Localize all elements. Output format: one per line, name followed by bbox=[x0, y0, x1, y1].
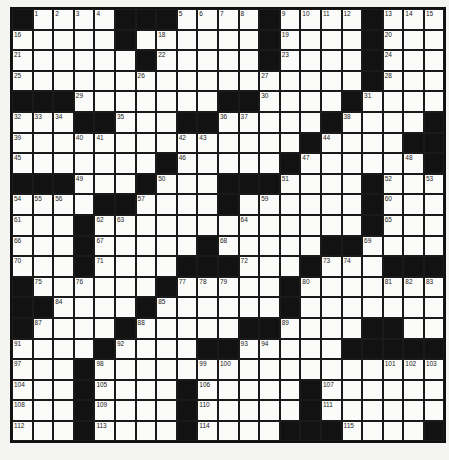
answer-square[interactable] bbox=[218, 400, 239, 421]
answer-square[interactable]: 10 bbox=[300, 9, 321, 30]
answer-square[interactable] bbox=[177, 339, 198, 360]
answer-square[interactable] bbox=[321, 339, 342, 360]
answer-square[interactable] bbox=[239, 153, 260, 174]
answer-square[interactable] bbox=[136, 277, 157, 298]
answer-square[interactable] bbox=[197, 71, 218, 92]
answer-square[interactable] bbox=[156, 359, 177, 380]
answer-square[interactable] bbox=[156, 236, 177, 257]
answer-square[interactable] bbox=[403, 215, 424, 236]
answer-square[interactable]: 114 bbox=[197, 421, 218, 442]
answer-square[interactable]: 54 bbox=[12, 194, 33, 215]
answer-square[interactable] bbox=[74, 30, 95, 51]
answer-square[interactable]: 111 bbox=[321, 400, 342, 421]
answer-square[interactable] bbox=[156, 215, 177, 236]
answer-square[interactable] bbox=[239, 133, 260, 154]
answer-square[interactable]: 82 bbox=[403, 277, 424, 298]
answer-square[interactable]: 113 bbox=[94, 421, 115, 442]
answer-square[interactable]: 14 bbox=[403, 9, 424, 30]
answer-square[interactable]: 21 bbox=[12, 50, 33, 71]
answer-square[interactable] bbox=[177, 194, 198, 215]
answer-square[interactable]: 53 bbox=[424, 174, 445, 195]
answer-square[interactable]: 7 bbox=[218, 9, 239, 30]
answer-square[interactable] bbox=[300, 318, 321, 339]
answer-square[interactable]: 66 bbox=[12, 236, 33, 257]
answer-square[interactable]: 69 bbox=[362, 236, 383, 257]
answer-square[interactable]: 105 bbox=[94, 380, 115, 401]
answer-square[interactable] bbox=[321, 30, 342, 51]
answer-square[interactable] bbox=[403, 236, 424, 257]
answer-square[interactable] bbox=[403, 30, 424, 51]
answer-square[interactable] bbox=[115, 297, 136, 318]
answer-square[interactable]: 60 bbox=[383, 194, 404, 215]
answer-square[interactable] bbox=[280, 359, 301, 380]
answer-square[interactable] bbox=[218, 215, 239, 236]
answer-square[interactable]: 50 bbox=[156, 174, 177, 195]
answer-square[interactable] bbox=[362, 380, 383, 401]
answer-square[interactable] bbox=[177, 318, 198, 339]
answer-square[interactable] bbox=[115, 359, 136, 380]
answer-square[interactable]: 15 bbox=[424, 9, 445, 30]
answer-square[interactable] bbox=[239, 297, 260, 318]
answer-square[interactable] bbox=[33, 421, 54, 442]
answer-square[interactable]: 76 bbox=[74, 277, 95, 298]
answer-square[interactable] bbox=[321, 277, 342, 298]
answer-square[interactable] bbox=[53, 236, 74, 257]
answer-square[interactable]: 79 bbox=[218, 277, 239, 298]
answer-square[interactable] bbox=[259, 112, 280, 133]
answer-square[interactable]: 109 bbox=[94, 400, 115, 421]
answer-square[interactable] bbox=[300, 297, 321, 318]
answer-square[interactable] bbox=[94, 153, 115, 174]
answer-square[interactable] bbox=[424, 91, 445, 112]
answer-square[interactable] bbox=[136, 91, 157, 112]
answer-square[interactable]: 49 bbox=[74, 174, 95, 195]
answer-square[interactable] bbox=[177, 71, 198, 92]
answer-square[interactable] bbox=[33, 153, 54, 174]
answer-square[interactable] bbox=[33, 50, 54, 71]
answer-square[interactable] bbox=[383, 400, 404, 421]
answer-square[interactable] bbox=[239, 277, 260, 298]
answer-square[interactable]: 23 bbox=[280, 50, 301, 71]
answer-square[interactable] bbox=[53, 400, 74, 421]
answer-square[interactable] bbox=[300, 30, 321, 51]
answer-square[interactable] bbox=[177, 359, 198, 380]
answer-square[interactable]: 84 bbox=[53, 297, 74, 318]
answer-square[interactable]: 9 bbox=[280, 9, 301, 30]
answer-square[interactable] bbox=[321, 359, 342, 380]
answer-square[interactable]: 19 bbox=[280, 30, 301, 51]
answer-square[interactable]: 38 bbox=[342, 112, 363, 133]
answer-square[interactable] bbox=[300, 359, 321, 380]
answer-square[interactable] bbox=[177, 174, 198, 195]
answer-square[interactable] bbox=[197, 30, 218, 51]
answer-square[interactable] bbox=[342, 153, 363, 174]
answer-square[interactable] bbox=[115, 277, 136, 298]
answer-square[interactable] bbox=[424, 400, 445, 421]
answer-square[interactable] bbox=[74, 318, 95, 339]
answer-square[interactable] bbox=[362, 256, 383, 277]
answer-square[interactable] bbox=[259, 236, 280, 257]
answer-square[interactable]: 55 bbox=[33, 194, 54, 215]
answer-square[interactable] bbox=[94, 91, 115, 112]
answer-square[interactable]: 73 bbox=[321, 256, 342, 277]
answer-square[interactable] bbox=[53, 133, 74, 154]
answer-square[interactable] bbox=[280, 91, 301, 112]
answer-square[interactable] bbox=[300, 194, 321, 215]
answer-square[interactable] bbox=[156, 71, 177, 92]
answer-square[interactable]: 74 bbox=[342, 256, 363, 277]
answer-square[interactable]: 103 bbox=[424, 359, 445, 380]
answer-square[interactable]: 81 bbox=[383, 277, 404, 298]
answer-square[interactable] bbox=[53, 339, 74, 360]
answer-square[interactable] bbox=[136, 339, 157, 360]
answer-square[interactable]: 89 bbox=[280, 318, 301, 339]
answer-square[interactable] bbox=[300, 112, 321, 133]
answer-square[interactable] bbox=[280, 400, 301, 421]
answer-square[interactable]: 11 bbox=[321, 9, 342, 30]
answer-square[interactable] bbox=[156, 318, 177, 339]
answer-square[interactable] bbox=[53, 359, 74, 380]
answer-square[interactable]: 97 bbox=[12, 359, 33, 380]
answer-square[interactable] bbox=[197, 91, 218, 112]
answer-square[interactable] bbox=[218, 421, 239, 442]
answer-square[interactable] bbox=[383, 380, 404, 401]
answer-square[interactable] bbox=[115, 174, 136, 195]
answer-square[interactable]: 75 bbox=[33, 277, 54, 298]
answer-square[interactable] bbox=[259, 153, 280, 174]
